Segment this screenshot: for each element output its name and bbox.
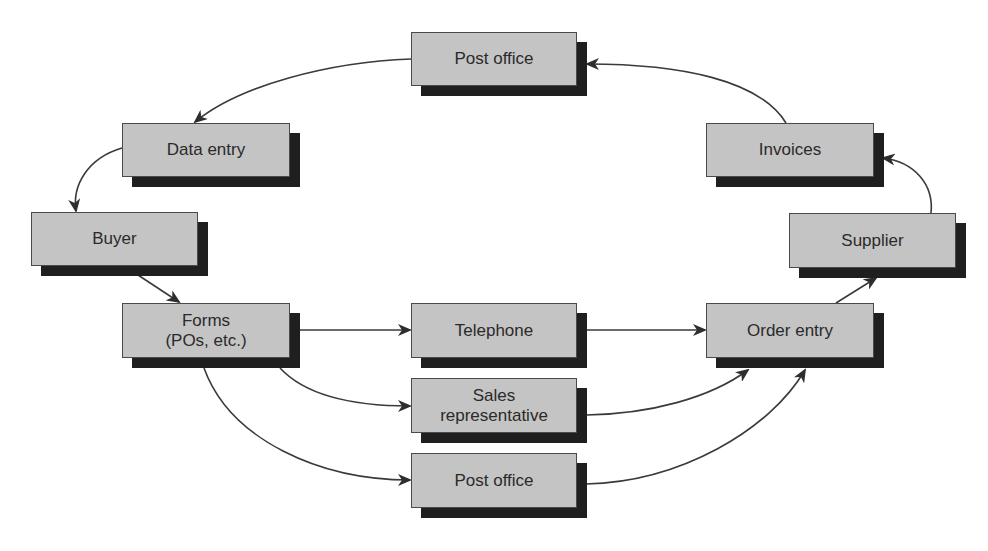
- arrow-dataentry-to-buyer: [75, 148, 122, 211]
- arrow-salesrep-to-orderentry: [586, 370, 748, 415]
- node-label: Invoices: [706, 123, 874, 177]
- node-data-entry: Data entry: [122, 123, 290, 177]
- node-label: Post office: [411, 32, 577, 86]
- arrow-buyer-to-forms: [138, 275, 179, 302]
- arrow-orderentry-to-supplier: [836, 278, 876, 303]
- purchasing-flow-diagram: Post office Data entry Buyer Forms (POs,…: [0, 0, 988, 551]
- node-label: Buyer: [31, 212, 198, 266]
- node-label: Sales representative: [411, 378, 577, 433]
- arrow-forms-to-postoffice-bottom: [204, 368, 410, 480]
- node-buyer: Buyer: [31, 212, 198, 266]
- node-label: Data entry: [122, 123, 290, 177]
- node-label: Order entry: [706, 303, 874, 358]
- arrow-postoffice-to-dataentry: [195, 59, 411, 122]
- node-label: Post office: [411, 453, 577, 508]
- arrow-postoffice-bottom-to-orderentry: [586, 370, 805, 484]
- node-invoices: Invoices: [706, 123, 874, 177]
- arrow-forms-to-salesrep: [280, 368, 410, 406]
- node-telephone: Telephone: [411, 303, 577, 358]
- arrow-invoices-to-postoffice-top: [587, 64, 786, 123]
- node-label: Telephone: [411, 303, 577, 358]
- node-label: Forms (POs, etc.): [122, 303, 290, 358]
- node-forms: Forms (POs, etc.): [122, 303, 290, 358]
- node-post-office-top: Post office: [411, 32, 577, 86]
- node-supplier: Supplier: [789, 213, 956, 268]
- node-label: Supplier: [789, 213, 956, 268]
- node-post-office-bottom: Post office: [411, 453, 577, 508]
- node-sales-representative: Sales representative: [411, 378, 577, 433]
- node-order-entry: Order entry: [706, 303, 874, 358]
- arrow-supplier-to-invoices: [883, 158, 931, 213]
